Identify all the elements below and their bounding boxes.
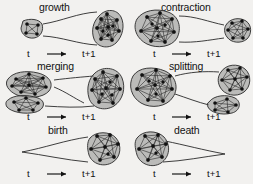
birth-cluster-t1 <box>88 133 120 165</box>
merging-cluster-t-lower <box>6 96 44 114</box>
merging-flow-upper <box>54 76 94 80</box>
contraction-cluster-t <box>135 10 179 47</box>
splitting-flow-lower <box>175 94 209 105</box>
panel-merging: merging <box>0 60 127 124</box>
splitting-flow-upper <box>175 72 219 76</box>
growth-flow-upper <box>43 12 97 24</box>
birth-axis-start: t <box>27 168 30 179</box>
splitting-axis-end: t+1 <box>207 111 220 122</box>
merging-time-arrow <box>47 115 66 120</box>
merging-flow-mid <box>54 87 84 103</box>
death-cluster-t <box>135 132 168 166</box>
splitting-time-arrow <box>172 115 191 120</box>
birth-diagram <box>0 124 127 184</box>
panel-splitting: splitting <box>127 60 253 124</box>
contraction-axis-start: t <box>153 48 156 59</box>
panel-contraction: contraction <box>127 0 253 62</box>
community-evolution-events-figure: growth <box>0 0 253 184</box>
death-time-arrow <box>172 172 191 177</box>
contraction-time-arrow <box>172 52 191 57</box>
growth-flow-lower <box>43 36 97 45</box>
death-axis-start: t <box>153 168 156 179</box>
merging-flow-lower <box>45 106 94 107</box>
birth-axis-end: t+1 <box>82 168 95 179</box>
death-diagram <box>127 124 253 184</box>
splitting-cluster-t1-upper <box>218 65 250 95</box>
merging-cluster-t-upper <box>6 72 51 98</box>
growth-cluster-t <box>21 19 43 38</box>
birth-cone-lower <box>22 152 88 162</box>
birth-cone-upper <box>22 137 88 152</box>
merging-cluster-t1 <box>88 68 124 108</box>
contraction-cluster-t1 <box>225 19 251 43</box>
merging-axis-end: t+1 <box>82 111 95 122</box>
death-cone-upper <box>165 141 225 154</box>
panel-growth: growth <box>0 0 127 62</box>
growth-axis-start: t <box>27 48 30 59</box>
birth-time-arrow <box>47 172 66 177</box>
death-axis-end: t+1 <box>207 168 220 179</box>
death-cone-lower <box>163 154 225 162</box>
merging-diagram <box>0 60 127 124</box>
contraction-flow-lower <box>179 38 224 42</box>
merging-axis-start: t <box>27 111 30 122</box>
panel-birth: birth <box>0 124 127 184</box>
contraction-diagram <box>127 0 253 62</box>
splitting-diagram <box>127 60 253 124</box>
contraction-flow-upper <box>179 16 224 25</box>
panel-death: death <box>127 124 253 184</box>
splitting-axis-start: t <box>153 111 156 122</box>
growth-axis-end: t+1 <box>82 48 95 59</box>
growth-diagram <box>0 0 127 62</box>
growth-cluster-t1 <box>93 10 123 46</box>
contraction-axis-end: t+1 <box>207 48 220 59</box>
growth-time-arrow <box>47 52 66 57</box>
splitting-cluster-t <box>131 68 176 106</box>
